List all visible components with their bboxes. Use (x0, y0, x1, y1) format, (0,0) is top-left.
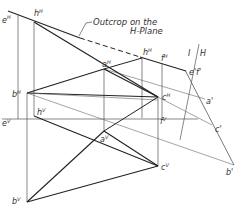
label-ef-prime: e'f' (189, 68, 201, 77)
outcrop-line-dashed (80, 38, 140, 57)
label-bV: bV (12, 196, 21, 206)
fold-label-h: H (200, 49, 206, 58)
label-cV: cV (161, 162, 169, 172)
label-fH: fH (161, 53, 168, 63)
label-eH: eH (2, 14, 11, 25)
label-hH2: hH (143, 47, 152, 57)
line-hV-cV (34, 116, 158, 166)
edge-bH-aH (27, 69, 104, 93)
label-a-prime: a' (206, 97, 213, 106)
label-cH: cH (162, 92, 170, 102)
aux-projector-b (27, 93, 234, 165)
label-b-prime: b' (226, 168, 233, 177)
descriptive-geometry-drawing: eH hH Outcrop on the H-Plane aH hH fH I … (0, 0, 244, 210)
label-eV: eV (2, 118, 11, 128)
label-c-prime: c' (215, 125, 222, 134)
label-hH: hH (34, 8, 43, 18)
label-bH: bH (12, 89, 21, 99)
fold-label-i: I (188, 49, 191, 58)
edge-aV-cV (104, 131, 158, 166)
label-hV: hV (37, 107, 46, 117)
label-fV: fV (160, 116, 167, 126)
annotation-leader (79, 22, 92, 36)
line-aV-cH (104, 97, 158, 131)
outcrop-line (8, 11, 80, 38)
annotation-line2: H-Plane (130, 26, 163, 36)
label-aV: aV (100, 134, 109, 144)
